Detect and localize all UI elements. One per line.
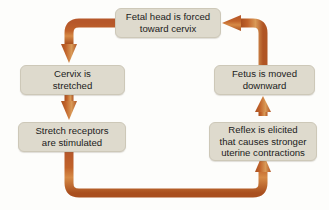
- node-fetal-head: Fetal head is forced toward cervix: [115, 8, 221, 38]
- node-fetus: Fetus is moved downward: [214, 65, 315, 95]
- node-cervix: Cervix is stretched: [20, 65, 125, 95]
- node-reflex: Reflex is elicited that causes stronger …: [209, 122, 317, 161]
- node-fetus-label: Fetus is moved downward: [229, 68, 300, 91]
- node-reflex-label: Reflex is elicited that causes stronger …: [217, 124, 310, 159]
- edge-reflex-to-fetus: [255, 96, 271, 116]
- node-fetal-head-label: Fetal head is forced toward cervix: [123, 11, 213, 34]
- node-cervix-label: Cervix is stretched: [50, 68, 95, 91]
- feedback-loop-diagram: Fetal head is forced toward cervix Cervi…: [0, 0, 329, 210]
- edge-cervix-to-stretch: [61, 95, 77, 120]
- edge-fetal-head-to-cervix: [61, 23, 115, 63]
- edge-fetus-to-fetal-head: [222, 15, 263, 65]
- node-stretch-receptors-label: Stretch receptors are stimulated: [32, 125, 111, 148]
- node-stretch-receptors: Stretch receptors are stimulated: [18, 122, 126, 152]
